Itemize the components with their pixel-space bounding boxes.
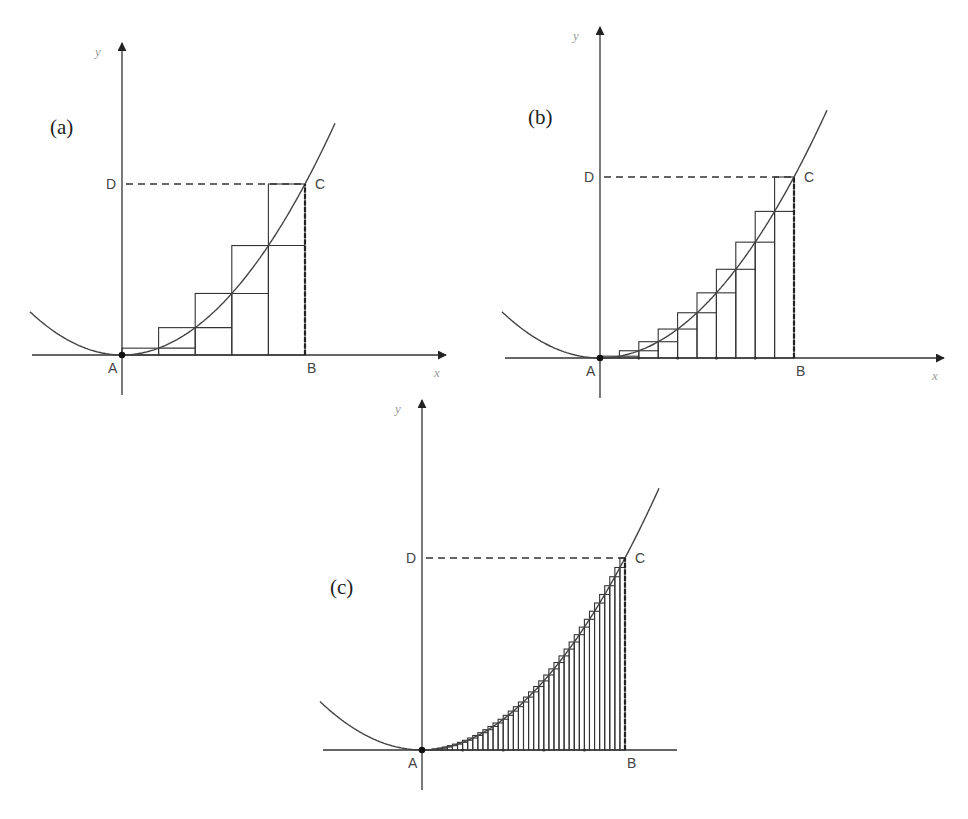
riemann-rectangle bbox=[529, 692, 534, 750]
riemann-rectangle bbox=[605, 586, 610, 750]
riemann-rectangle bbox=[610, 577, 615, 750]
riemann-rectangle bbox=[232, 246, 269, 355]
riemann-rectangle bbox=[508, 711, 513, 750]
x-axis-label: x bbox=[931, 368, 938, 383]
riemann-rectangle bbox=[503, 715, 508, 750]
panel-a: ABCDyx(a) bbox=[30, 43, 446, 395]
riemann-rectangle bbox=[524, 697, 529, 750]
riemann-rectangle bbox=[493, 723, 498, 750]
riemann-rectangle bbox=[544, 675, 549, 750]
panel-label: (a) bbox=[50, 115, 73, 139]
point-a-dot bbox=[419, 747, 426, 754]
riemann-rectangle bbox=[584, 619, 589, 750]
point-d-label: D bbox=[584, 169, 594, 185]
riemann-rectangle bbox=[589, 611, 594, 750]
riemann-rectangle bbox=[755, 211, 774, 358]
x-tick-dot bbox=[502, 748, 505, 751]
panel-label: (c) bbox=[330, 575, 353, 599]
riemann-rectangle bbox=[268, 184, 305, 355]
riemann-rectangle bbox=[574, 635, 579, 750]
riemann-rectangle bbox=[579, 627, 584, 750]
x-tick-dot bbox=[676, 356, 679, 359]
riemann-rectangle bbox=[615, 567, 620, 750]
riemann-rectangle bbox=[534, 687, 539, 750]
riemann-rectangle bbox=[595, 603, 600, 750]
riemann-rectangle bbox=[564, 649, 569, 750]
point-c-label: C bbox=[635, 550, 645, 566]
point-b-label: B bbox=[627, 755, 636, 771]
riemann-rectangle bbox=[122, 348, 159, 355]
parabola-curve bbox=[502, 110, 827, 358]
riemann-rectangle bbox=[736, 242, 755, 358]
riemann-rectangle bbox=[658, 329, 677, 358]
point-a-label: A bbox=[108, 360, 118, 376]
parabola-curve bbox=[320, 488, 659, 750]
point-c-label: C bbox=[315, 176, 325, 192]
parabola-curve bbox=[30, 123, 335, 355]
point-b-label: B bbox=[796, 363, 805, 379]
x-tick-dot bbox=[461, 748, 464, 751]
panel-b: ABCDyx(b) bbox=[502, 27, 944, 398]
riemann-rectangle bbox=[539, 681, 544, 750]
point-c-label: C bbox=[804, 169, 814, 185]
point-a-dot bbox=[597, 355, 604, 362]
riemann-sum-figure: ABCDyx(a) ABCDyx(b) ABCDy(c) bbox=[0, 0, 968, 819]
riemann-rectangle bbox=[498, 719, 503, 750]
riemann-rectangle bbox=[518, 702, 523, 750]
point-d-label: D bbox=[406, 550, 416, 566]
x-tick-dot bbox=[637, 356, 640, 359]
x-axis-label: x bbox=[433, 365, 440, 380]
riemann-rectangle bbox=[549, 669, 554, 750]
y-axis-label: y bbox=[93, 44, 101, 59]
riemann-rectangle bbox=[554, 663, 559, 750]
x-tick-dot bbox=[583, 748, 586, 751]
point-d-label: D bbox=[106, 176, 116, 192]
x-tick-dot bbox=[542, 748, 545, 751]
panel-label: (b) bbox=[528, 105, 553, 129]
riemann-rectangle bbox=[569, 642, 574, 750]
x-tick-dot bbox=[715, 356, 718, 359]
panel-c: ABCDy(c) bbox=[320, 400, 677, 790]
x-tick-dot bbox=[754, 356, 757, 359]
riemann-rectangle bbox=[775, 177, 794, 358]
y-axis-label: y bbox=[393, 401, 401, 416]
y-axis-label: y bbox=[571, 28, 579, 43]
riemann-rectangle bbox=[513, 707, 518, 750]
point-a-label: A bbox=[586, 363, 596, 379]
point-b-label: B bbox=[307, 360, 316, 376]
riemann-rectangle bbox=[678, 313, 697, 358]
riemann-rectangle bbox=[600, 594, 605, 750]
point-a-label: A bbox=[408, 755, 418, 771]
point-a-dot bbox=[119, 352, 126, 359]
riemann-rectangle bbox=[559, 656, 564, 750]
